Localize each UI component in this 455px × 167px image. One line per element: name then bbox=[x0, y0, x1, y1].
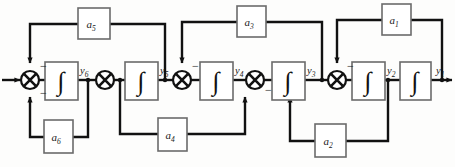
sign-minus-sum2-top: − bbox=[347, 59, 354, 73]
wire-a5-to-sum6 bbox=[30, 24, 78, 63]
wire-a6-to-sum6 bbox=[30, 97, 44, 137]
sign-minus-sum6-top: − bbox=[40, 59, 47, 73]
node-dot-y2 bbox=[386, 78, 390, 82]
summing-junction-sum5 bbox=[96, 71, 114, 89]
wire-a4-to-sum3 bbox=[185, 97, 245, 134]
block-diagram-canvas: a5 a3 a1 a6 a4 a2 ∫ ∫ ∫ ∫ ∫ ∫ y6 y5 y4 y… bbox=[0, 0, 455, 167]
sign-minus-sum4-top: − bbox=[192, 59, 199, 73]
block-diagram-svg: a5 a3 a1 a6 a4 a2 ∫ ∫ ∫ ∫ ∫ ∫ y6 y5 y4 y… bbox=[0, 0, 455, 167]
node-dot-y3 bbox=[320, 78, 324, 82]
signal-label-y5: y5 bbox=[159, 65, 169, 79]
wire-a1-to-sum2 bbox=[337, 20, 382, 63]
wire-a2-to-sum3b bbox=[290, 97, 315, 141]
summing-junction-sum2 bbox=[328, 71, 346, 89]
summing-junction-sum4 bbox=[173, 71, 191, 89]
signal-label-y4: y4 bbox=[234, 65, 244, 79]
signal-label-y3: y3 bbox=[306, 65, 316, 79]
wire-a3-to-sum4 bbox=[182, 22, 237, 63]
node-dot-y6b bbox=[118, 78, 122, 82]
signal-label-y2: y2 bbox=[386, 65, 396, 79]
sign-minus-sum6-bottom: − bbox=[40, 86, 47, 100]
summing-junction-sum6 bbox=[21, 71, 39, 89]
summing-junction-sum3 bbox=[246, 71, 264, 89]
sign-minus-sum3-bottom: − bbox=[265, 83, 272, 97]
signal-label-y6: y6 bbox=[79, 65, 89, 79]
